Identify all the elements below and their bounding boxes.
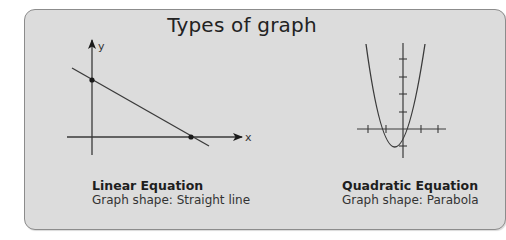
linear-caption: Linear Equation Graph shape: Straight li… [92, 178, 250, 208]
parabola-curve [366, 44, 425, 147]
y-intercept-point [89, 77, 94, 82]
linear-graph: x y [67, 40, 252, 155]
quadratic-caption-title: Quadratic Equation [342, 178, 479, 193]
quadratic-graph [357, 43, 446, 158]
x-intercept-point [188, 134, 193, 139]
linear-caption-subtitle: Graph shape: Straight line [92, 193, 250, 208]
y-axis-label: y [98, 40, 105, 53]
quadratic-caption-subtitle: Graph shape: Parabola [342, 193, 479, 208]
linear-caption-title: Linear Equation [92, 178, 250, 193]
quadratic-caption: Quadratic Equation Graph shape: Parabola [342, 178, 479, 208]
x-axis-label: x [245, 131, 252, 144]
